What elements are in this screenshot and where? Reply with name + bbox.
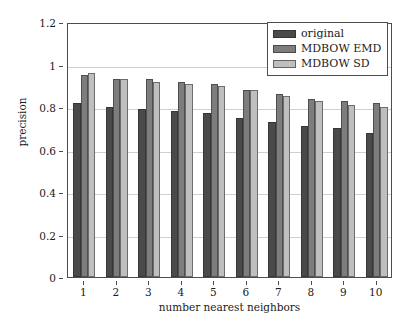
bar [366, 133, 373, 278]
bar [308, 99, 315, 278]
legend-swatch-icon [273, 45, 296, 53]
bar-chart-figure: 00.20.40.60.811.2 precision 12345678910 … [0, 0, 413, 327]
y-tick-label: 0.8 [39, 103, 56, 114]
bar [236, 118, 243, 277]
x-tick-label: 9 [340, 287, 347, 298]
legend-swatch-icon [273, 60, 296, 68]
bar [153, 82, 160, 278]
x-tick-label: 3 [145, 287, 152, 298]
legend-item: original [273, 26, 381, 41]
y-tick-mark [59, 193, 63, 194]
x-tick-label: 2 [112, 287, 119, 298]
y-tick-label: 1.2 [39, 18, 56, 29]
x-tick-mark [148, 281, 149, 285]
bar [185, 84, 192, 277]
bar [88, 73, 95, 277]
x-tick-label: 10 [369, 287, 382, 298]
bar [138, 109, 145, 277]
x-axis-title: number nearest neighbors [67, 301, 392, 313]
legend-item: MDBOW SD [273, 56, 381, 71]
y-tick-label: 0.6 [39, 145, 56, 156]
bar [203, 113, 210, 277]
legend-label: original [301, 28, 344, 39]
bar [120, 79, 127, 277]
x-tick-label: 4 [177, 287, 184, 298]
legend: originalMDBOW EMDMDBOW SD [267, 22, 388, 76]
x-tick-label: 6 [242, 287, 249, 298]
bar [301, 126, 308, 277]
x-tick-mark [83, 281, 84, 285]
y-axis-title: precision [16, 67, 28, 177]
y-tick-mark [59, 108, 63, 109]
bar [178, 82, 185, 278]
y-tick-mark [59, 151, 63, 152]
bar [380, 107, 387, 277]
x-axis: 12345678910 [67, 281, 392, 297]
bar [243, 90, 250, 277]
x-tick-mark [311, 281, 312, 285]
x-tick-mark [376, 281, 377, 285]
x-tick-mark [213, 281, 214, 285]
bar [315, 101, 322, 277]
legend-label: MDBOW SD [301, 58, 370, 69]
x-tick-label: 8 [307, 287, 314, 298]
bar [113, 79, 120, 277]
x-tick-label: 1 [80, 287, 87, 298]
bar [341, 101, 348, 277]
bar [250, 90, 257, 277]
y-tick-mark [59, 66, 63, 67]
bar [218, 86, 225, 277]
x-tick-label: 7 [275, 287, 282, 298]
legend-item: MDBOW EMD [273, 41, 381, 56]
bar [348, 105, 355, 277]
bar [171, 111, 178, 277]
bar [276, 94, 283, 277]
y-tick-label: 0.4 [39, 188, 56, 199]
y-tick-mark [59, 278, 63, 279]
y-tick-label: 1 [49, 60, 56, 71]
x-tick-mark [343, 281, 344, 285]
bar [373, 103, 380, 277]
bar [81, 75, 88, 277]
bar [73, 103, 80, 277]
y-tick-label: 0.2 [39, 230, 56, 241]
legend-label: MDBOW EMD [301, 43, 381, 54]
bar [146, 79, 153, 277]
bar [211, 84, 218, 277]
bar [268, 122, 275, 277]
y-tick-label: 0 [49, 273, 56, 284]
x-tick-mark [278, 281, 279, 285]
legend-swatch-icon [273, 30, 296, 38]
y-axis: 00.20.40.60.811.2 [0, 23, 63, 278]
y-tick-mark [59, 236, 63, 237]
x-tick-mark [116, 281, 117, 285]
bar [333, 128, 340, 277]
x-tick-label: 5 [210, 287, 217, 298]
bar [106, 107, 113, 277]
x-tick-mark [246, 281, 247, 285]
y-tick-mark [59, 23, 63, 24]
x-tick-mark [181, 281, 182, 285]
bar [283, 96, 290, 277]
